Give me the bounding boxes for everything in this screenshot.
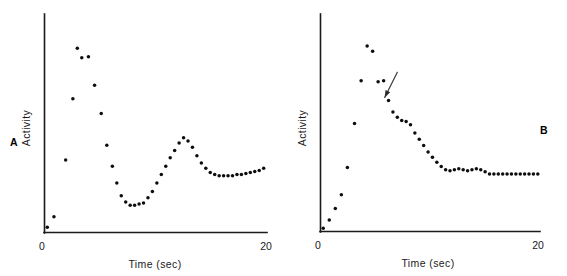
data-point	[353, 122, 357, 126]
data-point	[146, 196, 150, 200]
data-point	[217, 174, 221, 178]
data-point	[168, 156, 172, 160]
data-point	[195, 154, 199, 158]
data-point	[120, 194, 124, 198]
data-point	[418, 138, 422, 142]
panel-a: 0 20 Time (sec) Activity A	[10, 14, 272, 270]
data-point	[46, 225, 50, 229]
data-point	[426, 150, 430, 154]
data-point	[213, 173, 217, 177]
data-point	[155, 181, 159, 185]
data-point	[334, 207, 338, 211]
data-point	[257, 169, 261, 173]
data-point	[105, 143, 109, 147]
data-point	[371, 50, 375, 54]
data-point	[409, 123, 413, 127]
panel-a-xtick-0: 0	[39, 240, 45, 252]
data-point	[453, 168, 457, 172]
data-point	[328, 218, 332, 222]
annotation-arrow-head	[385, 90, 390, 97]
data-point	[391, 110, 395, 114]
data-point	[244, 172, 248, 176]
data-point	[466, 169, 470, 173]
figure-container: 0 20 Time (sec) Activity A 0 20 Time (se…	[0, 0, 567, 276]
data-point	[359, 79, 363, 83]
data-point	[160, 173, 164, 177]
data-point	[209, 171, 213, 175]
data-point	[93, 83, 97, 87]
data-point	[492, 172, 496, 176]
data-point	[186, 139, 190, 143]
data-point	[365, 44, 369, 48]
data-point	[226, 174, 230, 178]
data-point	[435, 161, 439, 165]
data-point	[111, 164, 115, 168]
data-point	[510, 172, 513, 176]
data-point	[115, 181, 119, 185]
data-point	[505, 172, 509, 176]
data-point	[64, 158, 68, 162]
data-point	[235, 173, 239, 177]
data-point	[396, 116, 400, 120]
data-point	[76, 47, 80, 51]
data-point	[400, 119, 404, 123]
data-point	[177, 141, 181, 145]
data-point	[479, 168, 483, 172]
data-point	[52, 215, 56, 219]
data-point	[514, 172, 518, 176]
panel-b-y-axis-label: Activity	[296, 109, 308, 146]
data-point	[80, 56, 84, 60]
data-point	[151, 190, 155, 194]
panel-b-data-points	[321, 44, 539, 230]
data-point	[124, 200, 128, 204]
data-point	[457, 167, 461, 171]
data-point	[173, 149, 177, 153]
data-point	[387, 99, 391, 103]
data-point	[340, 193, 344, 197]
data-point	[439, 165, 443, 169]
data-point	[142, 201, 146, 205]
data-point	[404, 120, 408, 124]
data-point	[376, 80, 380, 84]
data-point	[321, 227, 325, 231]
data-point	[182, 136, 186, 140]
data-point	[461, 168, 465, 172]
data-point	[523, 172, 527, 176]
data-point	[536, 172, 540, 176]
data-point	[133, 203, 137, 207]
panel-b-xtick-0: 0	[315, 239, 321, 251]
data-point	[519, 172, 523, 176]
data-point	[444, 168, 448, 172]
data-point	[532, 172, 536, 176]
data-point	[497, 172, 501, 176]
data-point	[422, 144, 426, 148]
data-point	[431, 155, 435, 159]
panel-b-x-axis-label: Time (sec)	[401, 257, 454, 269]
data-point	[470, 168, 474, 172]
panel-a-data-points	[46, 47, 266, 229]
data-point	[527, 172, 531, 176]
two-panel-scatter-figure: 0 20 Time (sec) Activity A 0 20 Time (se…	[0, 0, 567, 276]
panel-b-label: B	[540, 124, 548, 136]
panel-a-label: A	[10, 136, 18, 148]
panel-b-annotations	[385, 72, 398, 97]
panel-b: 0 20 Time (sec) Activity B	[296, 14, 548, 269]
data-point	[253, 170, 257, 174]
data-point	[99, 112, 103, 116]
data-point	[164, 164, 168, 168]
data-point	[488, 172, 492, 176]
data-point	[413, 131, 417, 135]
data-point	[501, 172, 505, 176]
data-point	[249, 171, 253, 175]
panel-a-y-axis-label: Activity	[20, 109, 32, 146]
data-point	[222, 174, 226, 178]
data-point	[204, 167, 208, 171]
data-point	[448, 169, 452, 173]
data-point	[483, 170, 487, 174]
data-point	[346, 166, 350, 170]
panel-b-xtick-20: 20	[532, 239, 544, 251]
data-point	[200, 161, 204, 165]
panel-a-x-axis-label: Time (sec)	[128, 258, 181, 270]
data-point	[191, 146, 195, 150]
data-point	[87, 55, 91, 59]
